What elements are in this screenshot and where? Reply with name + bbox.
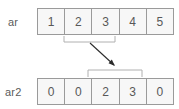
copy-arrow-line [90,43,114,65]
source-cell-2: 3 [92,9,119,34]
source-cell-3: 4 [120,9,147,34]
array-copy-diagram: ar 1 2 3 4 5 ar2 0 0 2 3 0 [0,0,179,109]
destination-cell-3: 3 [120,79,147,104]
destination-array-row: 0 0 2 3 0 [37,78,174,105]
source-cell-0: 1 [38,9,65,34]
destination-cell-2: 2 [92,79,119,104]
destination-cell-1: 0 [65,79,92,104]
destination-cell-4: 0 [147,79,173,104]
source-array-row: 1 2 3 4 5 [37,8,174,35]
destination-cell-0: 0 [38,79,65,104]
source-array-label: ar [8,17,18,28]
destination-array-label: ar2 [5,87,22,98]
copy-arrow-head-icon [109,59,116,66]
source-cell-1: 2 [65,9,92,34]
destination-selection-brace [88,70,142,77]
source-selection-brace [64,36,115,42]
source-cell-4: 5 [147,9,173,34]
